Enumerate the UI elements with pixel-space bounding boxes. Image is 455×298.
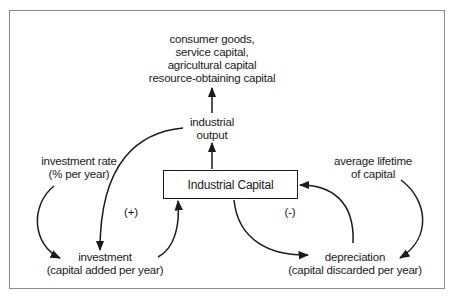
investment-rate-line-2: (% per year) [41,168,117,181]
uses-label: consumer goods, service capital, agricul… [149,33,276,85]
depreciation-line-2: (capital discarded per year) [288,264,422,277]
average-lifetime-line-2: of capital [334,168,412,181]
balancing-loop-label: (-) [285,206,296,219]
industrial-output-line-1: industrial [190,116,234,129]
arrow-lifetime-to-depreciation [400,180,423,258]
industrial-capital-stock: Industrial Capital [163,170,298,199]
industrial-capital-label: Industrial Capital [188,178,274,192]
depreciation-label: depreciation (capital discarded per year… [288,251,422,277]
uses-line-1: consumer goods, [149,33,276,46]
arrow-investment-to-capital [158,201,178,257]
depreciation-line-1: depreciation [288,251,422,264]
average-lifetime-line-1: average lifetime [334,155,412,168]
arrow-depreciation-to-capital [300,185,353,243]
arrow-capital-to-depreciation [234,200,308,255]
investment-label: investment (capital added per year) [47,251,164,277]
industrial-output-label: industrial output [190,116,234,142]
investment-line-1: investment [47,251,164,264]
investment-rate-label: investment rate (% per year) [41,155,117,181]
balancing-loop-sign: (-) [285,206,296,218]
arrow-rate-to-investment [37,186,60,258]
industrial-output-line-2: output [190,129,234,142]
uses-line-3: agricultural capital [149,59,276,72]
reinforcing-loop-sign: (+) [124,206,138,218]
average-lifetime-label: average lifetime of capital [334,155,412,181]
uses-line-4: resource-obtaining capital [149,72,276,85]
investment-line-2: (capital added per year) [47,264,164,277]
uses-line-2: service capital, [149,46,276,59]
reinforcing-loop-label: (+) [124,206,138,219]
investment-rate-line-1: investment rate [41,155,117,168]
